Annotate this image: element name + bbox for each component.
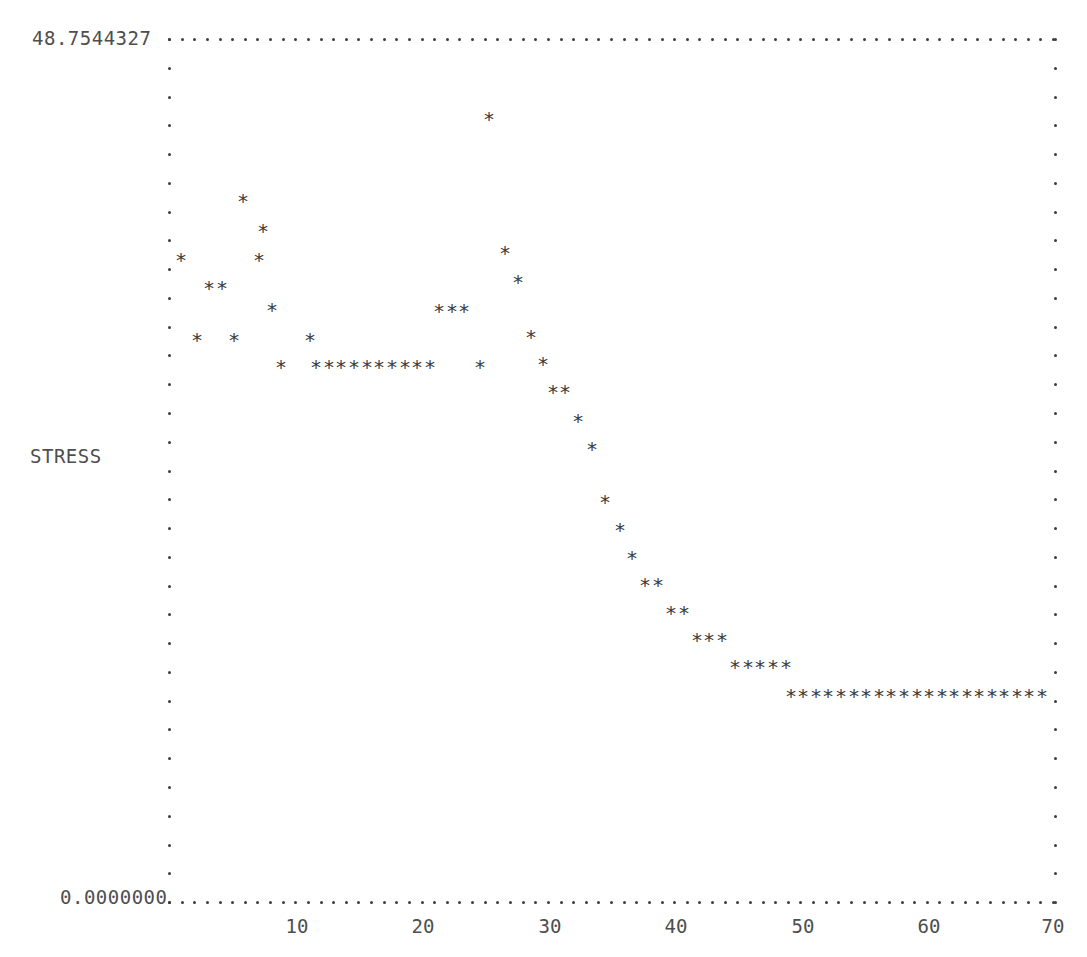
axis-dot-top	[673, 38, 676, 41]
x-axis-tick-label: 10	[286, 915, 309, 937]
data-point-marker: *	[810, 686, 822, 706]
data-point-marker: *	[411, 357, 423, 377]
data-point-marker: *	[742, 657, 754, 677]
axis-dot-left	[168, 815, 171, 818]
axis-dot-right	[1054, 239, 1057, 242]
axis-dot-right	[1054, 354, 1057, 357]
y-axis-min-label: 0.0000000	[60, 886, 167, 908]
axis-dot-bottom	[787, 901, 790, 904]
axis-dot-bottom	[673, 901, 676, 904]
axis-dot-top	[863, 38, 866, 41]
axis-dot-top	[370, 38, 373, 41]
axis-dot-left	[168, 901, 171, 904]
axis-dot-top	[585, 38, 588, 41]
axis-dot-top	[597, 38, 600, 41]
axis-dot-left	[168, 613, 171, 616]
axis-dot-right	[1054, 642, 1057, 645]
axis-dot-left	[168, 182, 171, 185]
data-point-marker: *	[703, 630, 715, 650]
data-point-marker: *	[1023, 686, 1035, 706]
axis-dot-left	[168, 498, 171, 501]
axis-dot-top	[1027, 38, 1030, 41]
data-point-marker: *	[923, 686, 935, 706]
axis-dot-top	[825, 38, 828, 41]
data-point-marker: *	[433, 301, 445, 321]
axis-dot-bottom	[320, 901, 323, 904]
axis-dot-top	[547, 38, 550, 41]
data-point-marker: *	[652, 575, 664, 595]
data-point-marker: *	[998, 686, 1010, 706]
axis-dot-top	[446, 38, 449, 41]
axis-dot-bottom	[345, 901, 348, 904]
axis-dot-bottom	[698, 901, 701, 904]
axis-dot-bottom	[294, 901, 297, 904]
data-point-marker: *	[424, 357, 436, 377]
axis-dot-right	[1054, 268, 1057, 271]
axis-dot-bottom	[421, 901, 424, 904]
axis-dot-top	[1039, 38, 1042, 41]
axis-dot-left	[168, 268, 171, 271]
axis-dot-right	[1054, 700, 1057, 703]
data-point-marker: *	[986, 686, 998, 706]
data-point-marker: *	[614, 520, 626, 540]
axis-dot-left	[168, 642, 171, 645]
axis-dot-right	[1054, 556, 1057, 559]
x-axis-tick-label: 20	[412, 915, 435, 937]
axis-dot-bottom	[648, 901, 651, 904]
data-point-marker: *	[547, 382, 559, 402]
x-axis-tick-label: 70	[1042, 915, 1065, 937]
axis-dot-left	[168, 326, 171, 329]
axis-dot-top	[534, 38, 537, 41]
axis-dot-top	[926, 38, 929, 41]
axis-dot-bottom	[522, 901, 525, 904]
data-point-marker: *	[386, 357, 398, 377]
axis-dot-bottom	[610, 901, 613, 904]
data-point-marker: *	[973, 686, 985, 706]
axis-dot-bottom	[547, 901, 550, 904]
axis-dot-bottom	[964, 901, 967, 904]
axis-dot-top	[686, 38, 689, 41]
axis-dot-right	[1054, 671, 1057, 674]
axis-dot-bottom	[623, 901, 626, 904]
axis-dot-right	[1054, 182, 1057, 185]
axis-dot-top	[976, 38, 979, 41]
data-point-marker: *	[537, 354, 549, 374]
axis-dot-bottom	[774, 901, 777, 904]
x-axis-tick-label: 40	[665, 915, 688, 937]
axis-dot-bottom	[749, 901, 752, 904]
axis-dot-top	[875, 38, 878, 41]
axis-dot-top	[648, 38, 651, 41]
data-point-marker: *	[1011, 686, 1023, 706]
data-point-marker: *	[237, 191, 249, 211]
axis-dot-top	[837, 38, 840, 41]
axis-dot-top	[736, 38, 739, 41]
data-point-marker: *	[228, 330, 240, 350]
axis-dot-bottom	[661, 901, 664, 904]
axis-dot-left	[168, 124, 171, 127]
axis-dot-bottom	[181, 901, 184, 904]
axis-dot-top	[964, 38, 967, 41]
axis-dot-bottom	[938, 901, 941, 904]
axis-dot-bottom	[244, 901, 247, 904]
data-point-marker: *	[323, 357, 335, 377]
axis-dot-top	[698, 38, 701, 41]
data-point-marker: *	[525, 327, 537, 347]
data-point-marker: *	[729, 657, 741, 677]
x-axis-tick-label: 50	[792, 915, 815, 937]
axis-dot-top	[357, 38, 360, 41]
axis-dot-bottom	[1027, 901, 1030, 904]
axis-dot-top	[1002, 38, 1005, 41]
axis-dot-top	[1014, 38, 1017, 41]
axis-dot-bottom	[433, 901, 436, 904]
axis-dot-left	[168, 153, 171, 156]
axis-dot-top	[509, 38, 512, 41]
data-point-marker: *	[335, 357, 347, 377]
axis-dot-bottom	[762, 901, 765, 904]
x-axis-tick-label: 60	[918, 915, 941, 937]
axis-dot-right	[1054, 441, 1057, 444]
axis-dot-bottom	[282, 901, 285, 904]
axis-dot-top	[711, 38, 714, 41]
axis-dot-bottom	[1014, 901, 1017, 904]
axis-dot-top	[231, 38, 234, 41]
data-point-marker: *	[499, 243, 511, 263]
